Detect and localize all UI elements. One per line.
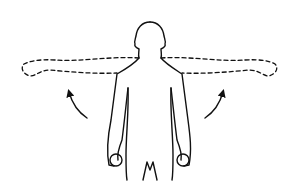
figure-svg <box>0 0 299 193</box>
left-arrow-icon <box>69 92 87 118</box>
right-arrow-icon <box>205 92 223 118</box>
right-fist <box>177 154 189 166</box>
exercise-diagram <box>0 0 299 193</box>
left-fist <box>110 154 122 166</box>
dashed-left-arm <box>22 58 139 76</box>
dashed-right-arm <box>161 58 277 76</box>
